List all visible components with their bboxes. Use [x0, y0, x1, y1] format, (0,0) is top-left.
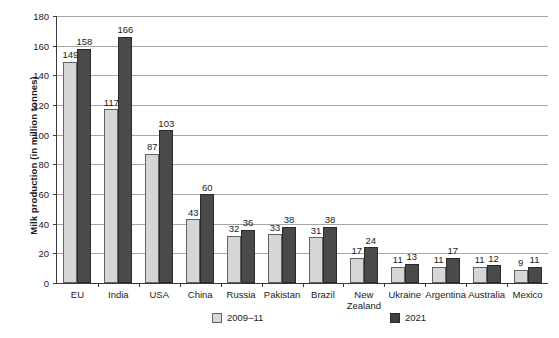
bar-light	[473, 267, 487, 283]
bar-group: 4360	[186, 16, 214, 283]
bar-value-label: 38	[277, 215, 301, 225]
legend-swatch-light	[212, 313, 222, 323]
bar-light	[63, 62, 77, 283]
x-tick-mark	[262, 283, 263, 287]
legend-label: 2021	[405, 313, 426, 323]
bar-value-label: 103	[154, 119, 178, 129]
x-category-label: Argentina	[425, 289, 466, 300]
bar-group: 1724	[350, 16, 378, 283]
bar-light	[391, 267, 405, 283]
bar-group: 149158	[63, 16, 91, 283]
bar-dark	[446, 258, 460, 283]
bar-group: 3138	[309, 16, 337, 283]
milk-production-bar-chart: Milk production (in million tonnes) 0204…	[0, 0, 559, 338]
x-category-label: USA	[139, 289, 180, 300]
bar-dark	[323, 227, 337, 283]
x-category-label: Brazil	[303, 289, 344, 300]
x-tick-mark	[139, 283, 140, 287]
x-tick-mark	[425, 283, 426, 287]
legend-label: 2009–11	[227, 313, 263, 323]
x-tick-mark	[384, 283, 385, 287]
bar-light	[350, 258, 364, 283]
bar-dark	[118, 37, 132, 283]
bar-value-label: 12	[482, 254, 506, 264]
bar-value-label: 158	[72, 37, 96, 47]
bar-value-label: 17	[441, 246, 465, 256]
x-tick-mark	[343, 283, 344, 287]
bar-light	[104, 109, 118, 283]
y-tick-label: 180	[21, 11, 49, 22]
x-category-label: India	[98, 289, 139, 300]
bar-group: 1112	[473, 16, 501, 283]
bar-value-label: 38	[318, 215, 342, 225]
bar-group: 3236	[227, 16, 255, 283]
bar-dark	[159, 130, 173, 283]
bar-group: 87103	[145, 16, 173, 283]
bar-value-label: 24	[359, 236, 383, 246]
bars-layer: 1491581171668710343603236333831381724111…	[57, 16, 548, 283]
x-tick-mark	[466, 283, 467, 287]
bar-group: 3338	[268, 16, 296, 283]
x-category-label: China	[180, 289, 221, 300]
bar-light	[432, 267, 446, 283]
x-tick-mark	[221, 283, 222, 287]
y-tick-label: 20	[21, 248, 49, 259]
chart-legend: 2009–112021	[0, 311, 559, 327]
y-tick-label: 100	[21, 130, 49, 141]
bar-dark	[364, 247, 378, 283]
x-category-label: NewZealand	[343, 289, 384, 311]
y-tick-label: 140	[21, 70, 49, 81]
y-tick-label: 160	[21, 41, 49, 52]
y-tick-label: 60	[21, 189, 49, 200]
legend-item[interactable]: 2021	[390, 313, 426, 323]
bar-group: 1113	[391, 16, 419, 283]
x-tick-mark	[507, 283, 508, 287]
x-tick-mark	[180, 283, 181, 287]
bar-value-label: 166	[113, 25, 137, 35]
bar-value-label: 13	[400, 252, 424, 262]
bar-dark	[77, 49, 91, 283]
bar-light	[227, 236, 241, 283]
bar-light	[268, 234, 282, 283]
y-tick-mark	[53, 283, 57, 284]
bar-light	[186, 219, 200, 283]
x-category-label: EU	[57, 289, 98, 300]
legend-swatch-dark	[390, 313, 400, 323]
y-tick-label: 80	[21, 159, 49, 170]
x-category-label: Pakistan	[262, 289, 303, 300]
x-tick-mark	[303, 283, 304, 287]
x-category-label: Australia	[466, 289, 507, 300]
x-category-label: Mexico	[507, 289, 548, 300]
y-tick-label: 0	[21, 278, 49, 289]
bar-value-label: 11	[523, 255, 547, 265]
y-tick-label: 40	[21, 219, 49, 230]
bar-group: 911	[514, 16, 542, 283]
bar-light	[145, 154, 159, 283]
bar-group: 1117	[432, 16, 460, 283]
bar-dark	[241, 230, 255, 283]
bar-value-label: 36	[236, 218, 260, 228]
x-category-label: Russia	[221, 289, 262, 300]
bar-dark	[405, 264, 419, 283]
x-category-label: Ukraine	[384, 289, 425, 300]
x-tick-mark	[98, 283, 99, 287]
bar-dark	[487, 265, 501, 283]
bar-dark	[528, 267, 542, 283]
bar-dark	[282, 227, 296, 283]
bar-light	[309, 237, 323, 283]
y-tick-label: 120	[21, 100, 49, 111]
legend-item[interactable]: 2009–11	[212, 313, 263, 323]
bar-light	[514, 270, 528, 283]
bar-dark	[200, 194, 214, 283]
bar-value-label: 60	[195, 183, 219, 193]
bar-group: 117166	[104, 16, 132, 283]
